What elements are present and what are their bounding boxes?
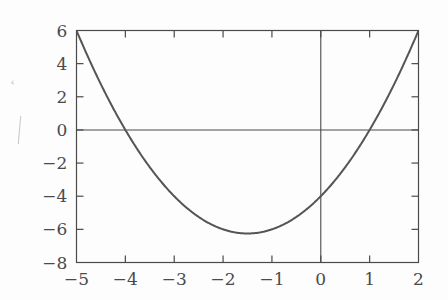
x-tick-label: −3	[161, 271, 186, 288]
figure-container: ˆ −5−4−3−2−1012 −8−6−4−20246	[0, 0, 448, 300]
y-tick-label: 0	[56, 121, 67, 138]
y-tick-label: 4	[56, 55, 67, 72]
reference-lines	[77, 31, 419, 263]
x-tick-label: −2	[210, 271, 235, 288]
y-tick-label: −6	[42, 221, 67, 238]
y-tick-label: −4	[42, 188, 67, 205]
x-tick-label: −1	[259, 271, 284, 288]
x-tick-label: 2	[413, 271, 424, 288]
data-series	[77, 31, 419, 234]
x-tick-label: −4	[113, 271, 138, 288]
tick-marks	[77, 31, 419, 263]
x-tick-label: 0	[315, 271, 326, 288]
x-tick-label: −5	[64, 271, 89, 288]
y-tick-label: 2	[56, 88, 67, 105]
y-tick-label: −2	[42, 155, 67, 172]
y-tick-label: −8	[42, 254, 67, 271]
axes-frame	[77, 31, 419, 263]
x-tick-label: 1	[364, 271, 375, 288]
y-tick-label: 6	[56, 22, 67, 39]
